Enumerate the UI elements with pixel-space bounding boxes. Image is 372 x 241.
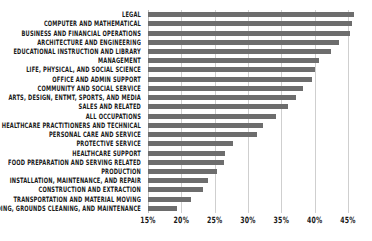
bar-row	[148, 77, 312, 82]
bar-row	[148, 151, 225, 156]
x-tick-label: 25%	[207, 215, 222, 225]
bar	[148, 197, 191, 202]
bar	[148, 95, 296, 100]
bar-row	[148, 58, 319, 63]
bar	[148, 86, 303, 91]
x-tick-label: 15%	[140, 215, 155, 225]
bar	[148, 187, 203, 192]
value-axis-ticks: 15%20%25%30%35%40%45%	[148, 215, 358, 231]
bar-row	[148, 141, 233, 146]
bar-row	[148, 21, 352, 26]
bar-chart: LEGALCOMPUTER AND MATHEMATICALBUSINESS A…	[0, 0, 372, 241]
bar-row	[148, 197, 191, 202]
bar-row	[148, 206, 177, 211]
bar	[148, 132, 257, 137]
bar	[148, 58, 319, 63]
bar-row	[148, 178, 208, 183]
bar-row	[148, 169, 217, 174]
bar	[148, 40, 339, 45]
bar-row	[148, 67, 315, 72]
bar	[148, 31, 350, 36]
bar-row	[148, 95, 296, 100]
bar	[148, 49, 331, 54]
category-label: BUILDING, GROUNDS CLEANING, AND MAINTENA…	[0, 202, 141, 215]
bar-row	[148, 104, 288, 109]
bar-row	[148, 40, 339, 45]
bar-row	[148, 123, 263, 128]
bar	[148, 178, 208, 183]
bar	[148, 21, 352, 26]
bar	[148, 104, 288, 109]
bar	[148, 123, 263, 128]
bar-row	[148, 12, 354, 17]
x-tick-label: 35%	[274, 215, 289, 225]
x-tick-label: 20%	[174, 215, 189, 225]
bar	[148, 151, 225, 156]
bar	[148, 169, 217, 174]
category-axis-labels: LEGALCOMPUTER AND MATHEMATICALBUSINESS A…	[0, 10, 145, 213]
bar	[148, 114, 276, 119]
bar	[148, 141, 233, 146]
bar	[148, 206, 177, 211]
bar	[148, 160, 224, 165]
bar-row	[148, 49, 331, 54]
bar-row	[148, 86, 303, 91]
bar-row	[148, 187, 203, 192]
x-tick-label: 40%	[307, 215, 322, 225]
bar	[148, 77, 312, 82]
plot-area	[148, 10, 358, 213]
bar-row	[148, 160, 224, 165]
x-tick-label: 30%	[240, 215, 255, 225]
bar-row	[148, 114, 276, 119]
bar-row	[148, 132, 257, 137]
bar	[148, 12, 354, 17]
bar	[148, 67, 315, 72]
bar-row	[148, 31, 350, 36]
x-tick-label: 45%	[340, 215, 355, 225]
bar-series	[148, 10, 358, 213]
